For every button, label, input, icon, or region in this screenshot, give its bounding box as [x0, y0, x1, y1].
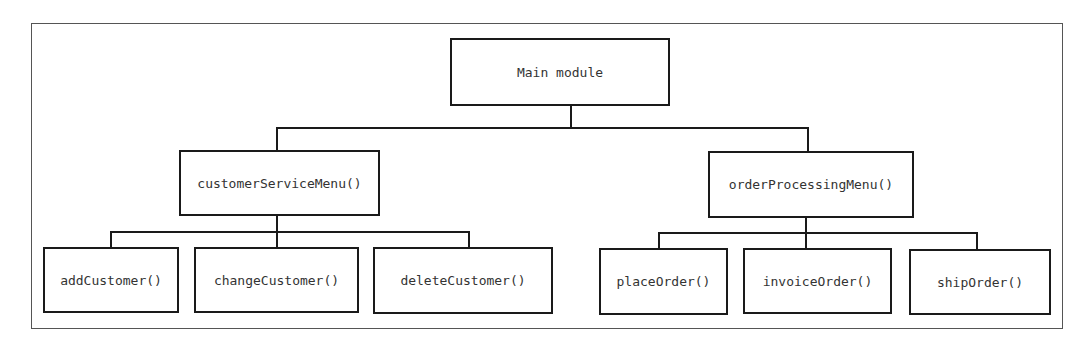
connector	[976, 232, 978, 249]
connector	[110, 231, 470, 233]
connector	[276, 127, 809, 129]
node-label: customerServiceMenu()	[197, 176, 361, 191]
connector	[110, 231, 112, 248]
node-invoice-order: invoiceOrder()	[743, 248, 892, 314]
node-change-customer: changeCustomer()	[194, 247, 359, 313]
node-order-processing-menu: orderProcessingMenu()	[708, 151, 914, 218]
node-place-order: placeOrder()	[599, 248, 728, 315]
node-label: deleteCustomer()	[400, 273, 525, 288]
node-delete-customer: deleteCustomer()	[373, 247, 553, 314]
node-main-module: Main module	[450, 38, 670, 106]
node-label: shipOrder()	[937, 275, 1023, 290]
node-label: placeOrder()	[617, 274, 711, 289]
node-label: orderProcessingMenu()	[729, 177, 893, 192]
node-ship-order: shipOrder()	[909, 249, 1051, 315]
node-customer-service-menu: customerServiceMenu()	[179, 150, 380, 216]
connector	[570, 105, 572, 129]
connector	[468, 231, 470, 248]
node-label: changeCustomer()	[214, 273, 339, 288]
connector	[658, 232, 978, 234]
node-label: invoiceOrder()	[763, 274, 873, 289]
node-label: Main module	[517, 65, 603, 80]
node-label: addCustomer()	[60, 273, 162, 288]
connector	[658, 232, 660, 249]
node-add-customer: addCustomer()	[43, 247, 179, 313]
connector	[807, 127, 809, 152]
connector	[276, 127, 278, 151]
